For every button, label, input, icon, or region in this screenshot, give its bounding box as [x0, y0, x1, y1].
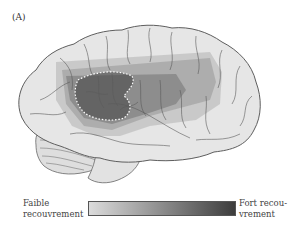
brain-figure [0, 0, 288, 230]
legend-high-label: Fort recou- vrement [239, 198, 287, 220]
panel-label: (A) [12, 12, 26, 22]
legend-low-label: Faible recouvrement [23, 198, 83, 220]
legend-low-line2: recouvrement [23, 209, 83, 220]
brain-illustration [0, 0, 288, 230]
legend-high-line2: vrement [239, 209, 287, 220]
overlap-gradient-bar [89, 202, 236, 216]
legend-high-line1: Fort recou- [239, 198, 287, 209]
legend-low-line1: Faible [23, 198, 83, 209]
